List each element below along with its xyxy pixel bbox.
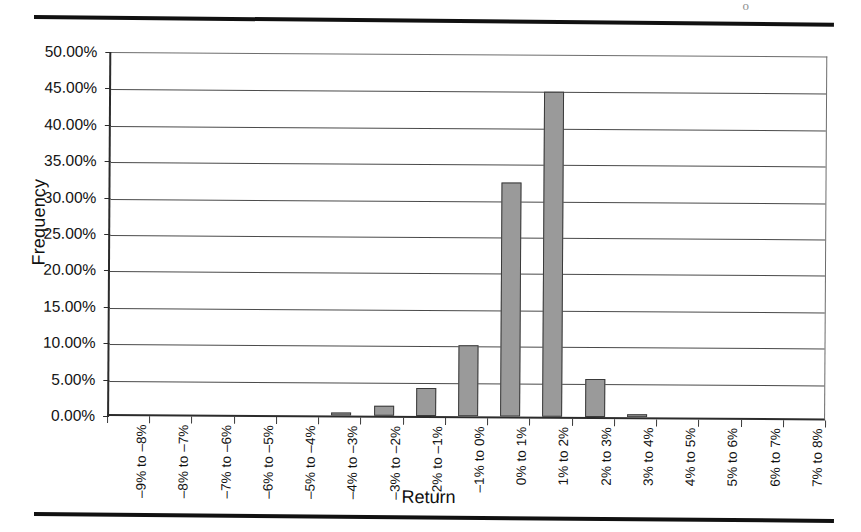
y-tick-label: 20.00% xyxy=(43,261,96,279)
bar xyxy=(416,388,436,417)
histogram-chart: Frequency 0.00%5.00%10.00%15.00%20.00%25… xyxy=(0,0,861,532)
x-tick-label: –7% to –6% xyxy=(218,425,233,499)
y-tick-mark xyxy=(105,88,111,89)
y-tick-label: 0.00% xyxy=(51,407,95,425)
x-tick-mark xyxy=(445,418,446,425)
bar xyxy=(331,412,351,415)
y-tick-mark xyxy=(105,161,111,162)
y-tick-label: 30.00% xyxy=(44,188,97,206)
y-tick-mark xyxy=(104,234,110,235)
x-tick-label: 2% to 3% xyxy=(598,427,613,486)
scanned-page: o Frequency 0.00%5.00%10.00%15.00%20.00%… xyxy=(0,0,861,532)
bar xyxy=(543,91,565,417)
x-tick-label: –3% to –2% xyxy=(387,426,402,500)
x-tick-label: –5% to –4% xyxy=(303,425,318,499)
y-tick-mark xyxy=(104,307,110,308)
y-tick-label: 35.00% xyxy=(44,152,97,170)
x-tick-label: 1% to 2% xyxy=(556,427,571,486)
bar xyxy=(627,414,647,417)
bar xyxy=(500,183,521,417)
x-tick-label: –9% to –8% xyxy=(134,424,149,498)
x-tick-label: 5% to 6% xyxy=(725,428,740,487)
y-axis-tick-labels: 0.00%5.00%10.00%15.00%20.00%25.00%30.00%… xyxy=(0,51,105,416)
x-tick-mark xyxy=(487,418,488,425)
x-tick-mark xyxy=(529,419,530,426)
y-tick-label: 45.00% xyxy=(44,79,97,97)
x-tick-mark xyxy=(614,419,615,426)
x-tick-label: –6% to –5% xyxy=(260,425,275,499)
x-axis-title: Return xyxy=(402,487,456,508)
x-tick-label: 3% to 4% xyxy=(641,427,656,486)
x-tick-mark xyxy=(107,416,108,423)
y-tick-mark xyxy=(104,198,110,199)
y-tick-mark xyxy=(104,343,110,344)
y-tick-label: 10.00% xyxy=(43,334,96,352)
x-tick-mark xyxy=(149,416,150,423)
y-tick-mark xyxy=(105,52,111,53)
y-tick-label: 40.00% xyxy=(44,115,97,133)
x-tick-label: 6% to 7% xyxy=(767,428,782,487)
plot-area xyxy=(107,52,827,420)
bar xyxy=(374,405,394,415)
y-tick-mark xyxy=(103,416,109,417)
y-tick-mark xyxy=(103,380,109,381)
x-tick-mark xyxy=(360,418,361,425)
x-axis-tick-labels: –9% to –8%–8% to –7%–7% to –6%–6% to –5%… xyxy=(107,424,825,500)
bar xyxy=(458,345,478,416)
x-tick-label: –1% to 0% xyxy=(472,426,487,492)
x-tick-mark xyxy=(234,417,235,424)
y-tick-label: 5.00% xyxy=(51,370,95,388)
y-tick-label: 15.00% xyxy=(43,297,96,315)
x-tick-mark xyxy=(403,418,404,425)
x-tick-mark xyxy=(192,417,193,424)
x-tick-label: –8% to –7% xyxy=(176,424,191,498)
x-tick-mark xyxy=(783,420,784,427)
y-tick-mark xyxy=(105,125,111,126)
bar xyxy=(585,379,605,417)
x-tick-mark xyxy=(698,420,699,427)
x-tick-mark xyxy=(276,417,277,424)
x-tick-mark xyxy=(318,417,319,424)
y-tick-mark xyxy=(104,270,110,271)
x-tick-label: 0% to 1% xyxy=(514,427,529,486)
x-tick-label: –4% to –3% xyxy=(345,425,360,499)
y-tick-label: 25.00% xyxy=(44,225,97,243)
x-tick-mark xyxy=(572,419,573,426)
x-tick-label: 4% to 5% xyxy=(683,428,698,487)
bar-series xyxy=(109,53,826,418)
x-tick-label: 7% to 8% xyxy=(810,428,825,487)
y-tick-label: 50.00% xyxy=(45,43,98,61)
x-tick-mark xyxy=(825,420,826,427)
x-tick-mark xyxy=(741,420,742,427)
x-tick-mark xyxy=(656,419,657,426)
